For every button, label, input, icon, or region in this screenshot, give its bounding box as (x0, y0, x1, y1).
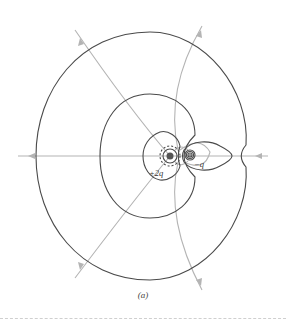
negative-charge-icon (189, 154, 191, 156)
footer-divider (0, 318, 286, 319)
positive-charge-label: +2q (149, 168, 164, 178)
field-line-upper-right (175, 26, 202, 150)
arrow-icon-lower-left (78, 262, 84, 270)
arrow-icon-left (28, 153, 35, 159)
figure-caption: (a) (0, 290, 286, 300)
equipotential-diagram: +2q −q (0, 0, 286, 321)
positive-charge-icon (167, 153, 174, 160)
arrow-icon-right (255, 153, 262, 159)
negative-charge-label: −q (194, 159, 205, 169)
